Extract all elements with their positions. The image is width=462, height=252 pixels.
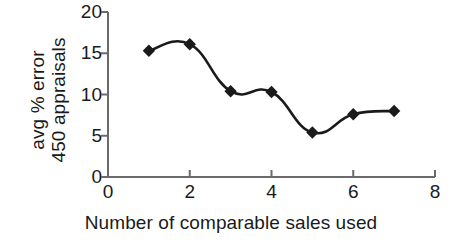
x-tick-label-4: 4 bbox=[252, 182, 292, 201]
x-tick-label-6: 6 bbox=[333, 182, 373, 201]
data-point-6 bbox=[347, 108, 359, 120]
data-point-7 bbox=[388, 105, 400, 117]
chart-figure: avg % error 450 appraisals 05101520 0246… bbox=[0, 0, 462, 252]
x-axis-ticks bbox=[108, 170, 435, 177]
data-point-1 bbox=[143, 45, 155, 57]
y-axis-title-line-1: avg % error bbox=[27, 38, 48, 163]
plot-area bbox=[108, 20, 436, 178]
x-tick-label-0: 0 bbox=[88, 182, 128, 201]
data-point-2 bbox=[184, 38, 196, 50]
x-axis-title: Number of comparable sales used bbox=[0, 212, 462, 234]
data-point-5 bbox=[306, 126, 318, 138]
data-point-4 bbox=[265, 86, 277, 98]
x-tick-label-2: 2 bbox=[170, 182, 210, 201]
x-tick-label-8: 8 bbox=[415, 182, 455, 201]
data-markers bbox=[143, 38, 401, 139]
x-axis-tick-labels: 02468 bbox=[0, 182, 462, 210]
chart-svg bbox=[92, 6, 452, 192]
y-axis-ticks bbox=[101, 12, 108, 177]
